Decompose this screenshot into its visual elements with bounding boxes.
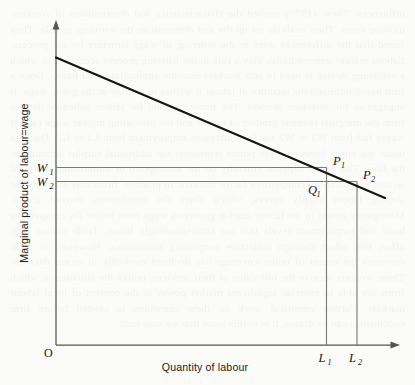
y-axis-tick-w2: W 2 <box>37 175 54 191</box>
x-axis-tick-l1: L 1 <box>318 351 332 367</box>
marginal-product-of-labour-curve <box>56 58 385 199</box>
q1-subscript: 1 <box>317 190 321 199</box>
w2-label: W <box>37 175 49 189</box>
y-axis-arrowhead <box>53 20 60 30</box>
w1-subscript: 1 <box>50 168 54 177</box>
l1-subscript: 1 <box>328 358 332 367</box>
w2-subscript: 2 <box>50 182 54 191</box>
x-axis-arrowhead <box>391 342 401 349</box>
l2-subscript: 2 <box>358 358 362 367</box>
l2-label: L <box>348 351 356 365</box>
labour-demand-chart: W 1 W 2 L 1 L 2 P 1 P 2 Q 1 O Marginal p… <box>0 0 415 385</box>
annotation-q1: Q 1 <box>308 183 321 199</box>
y-axis-title: Marginal product of labour=wage <box>18 103 30 262</box>
chart-axes <box>53 20 400 348</box>
p1-label: P <box>332 154 341 168</box>
w1-label: W <box>37 161 49 175</box>
annotation-p1: P 1 <box>332 154 345 170</box>
p2-label: P <box>362 168 371 182</box>
p1-subscript: 1 <box>341 161 345 170</box>
x-axis-tick-l2: L 2 <box>348 351 362 367</box>
annotation-p2: P 2 <box>362 168 375 184</box>
origin-label: O <box>44 346 53 360</box>
l1-label: L <box>318 351 326 365</box>
x-axis-title: Quantity of labour <box>162 361 249 373</box>
p2-subscript: 2 <box>371 175 375 184</box>
